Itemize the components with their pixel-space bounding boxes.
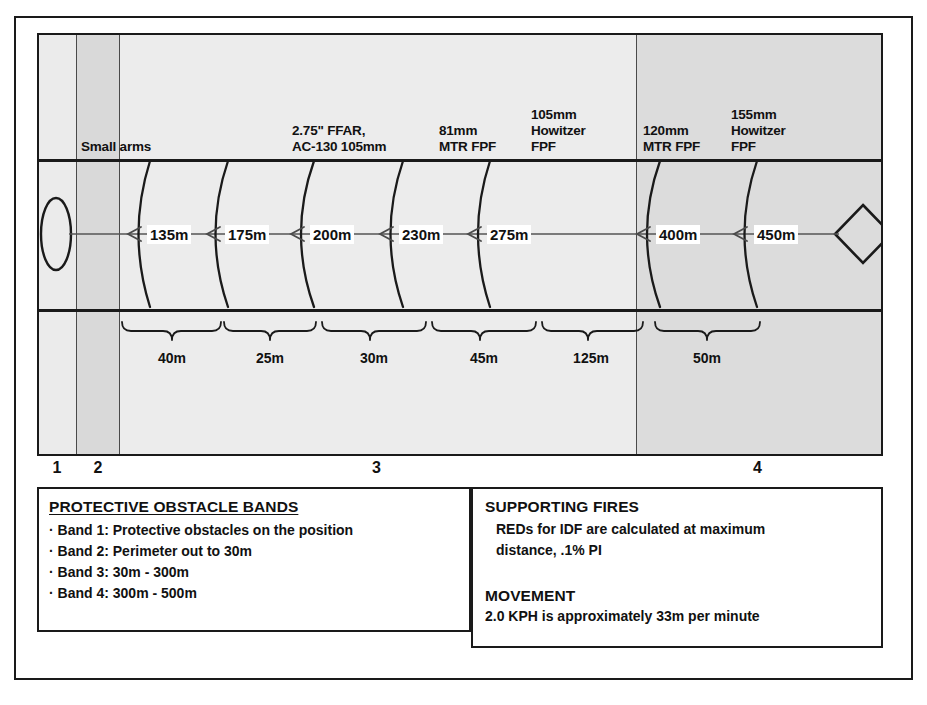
diamond-enemy-icon <box>835 205 883 263</box>
interval-label-30m: 30m <box>339 350 409 366</box>
band-number-3: 3 <box>118 459 635 477</box>
range-diagram-panel: Small arms 2.75" FFAR, AC-130 105mm 81mm… <box>37 33 883 456</box>
legend-left-item-3: · Band 3: 30m - 300m <box>49 562 469 583</box>
distance-label-230m: 230m <box>399 225 443 244</box>
range-arcs-layer <box>39 35 883 456</box>
interval-label-40m: 40m <box>137 350 207 366</box>
legend-right-supporting-line-2: distance, .1% PI <box>485 540 881 561</box>
distance-label-400m: 400m <box>656 225 700 244</box>
legend-left-item-1: · Band 1: Protective obstacles on the po… <box>49 520 469 541</box>
legend-right-supporting-line-1: REDs for IDF are calculated at maximum <box>485 519 881 540</box>
legend-left-title: PROTECTIVE OBSTACLE BANDS <box>49 498 469 516</box>
diagram-page: Small arms 2.75" FFAR, AC-130 105mm 81mm… <box>0 0 927 705</box>
supporting-fires-movement-legend: SUPPORTING FIRES REDs for IDF are calcul… <box>471 487 883 648</box>
legend-right-title-supporting-fires: SUPPORTING FIRES <box>485 498 881 516</box>
distance-label-200m: 200m <box>310 225 354 244</box>
interval-label-45m: 45m <box>449 350 519 366</box>
band-number-1: 1 <box>39 459 75 477</box>
brace-30m <box>322 322 426 340</box>
legend-left-item-4: · Band 4: 300m - 500m <box>49 583 469 604</box>
distance-label-175m: 175m <box>225 225 269 244</box>
brace-40m <box>122 322 221 340</box>
legend-right-title-movement: MOVEMENT <box>485 587 881 605</box>
interval-label-50m: 50m <box>672 350 742 366</box>
brace-25m <box>224 322 316 340</box>
brace-125m <box>542 322 643 340</box>
brace-45m <box>432 322 536 340</box>
protective-obstacle-bands-legend: PROTECTIVE OBSTACLE BANDS · Band 1: Prot… <box>37 487 471 632</box>
ellipse-position-icon <box>41 198 71 270</box>
distance-label-135m: 135m <box>147 225 191 244</box>
distance-label-275m: 275m <box>487 225 531 244</box>
legend-left-item-2: · Band 2: Perimeter out to 30m <box>49 541 469 562</box>
distance-label-450m: 450m <box>754 225 798 244</box>
brace-50m <box>655 322 760 340</box>
interval-label-125m: 125m <box>553 350 629 366</box>
legend-right-movement-line-1: 2.0 KPH is approximately 33m per minute <box>485 606 881 627</box>
band-number-2: 2 <box>76 459 120 477</box>
interval-label-25m: 25m <box>235 350 305 366</box>
band-number-4: 4 <box>635 459 880 477</box>
